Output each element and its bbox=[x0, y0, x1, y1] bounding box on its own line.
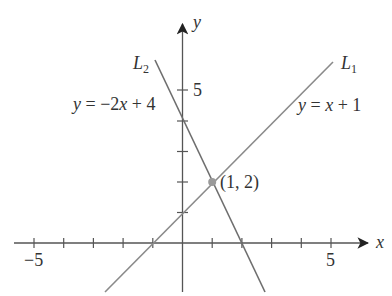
chart-canvas: x y −5 5 5 L1 y = x + 1 L2 y = −2x + 4 (… bbox=[0, 0, 392, 296]
x-tick-label-5: 5 bbox=[326, 250, 335, 270]
l2-label: L2 bbox=[132, 53, 149, 76]
x-tick-label-neg5: −5 bbox=[24, 250, 43, 270]
x-axis-label: x bbox=[375, 232, 384, 252]
intersection-point bbox=[208, 178, 216, 186]
l1-label: L1 bbox=[340, 53, 357, 76]
x-axis bbox=[14, 238, 368, 248]
l1-equation: y = x + 1 bbox=[296, 95, 361, 115]
intersection-label: (1, 2) bbox=[220, 172, 259, 193]
y-axis-label: y bbox=[191, 12, 201, 32]
y-axis bbox=[177, 24, 188, 292]
y-tick-label-5: 5 bbox=[193, 80, 202, 100]
l2-equation: y = −2x + 4 bbox=[71, 94, 155, 114]
